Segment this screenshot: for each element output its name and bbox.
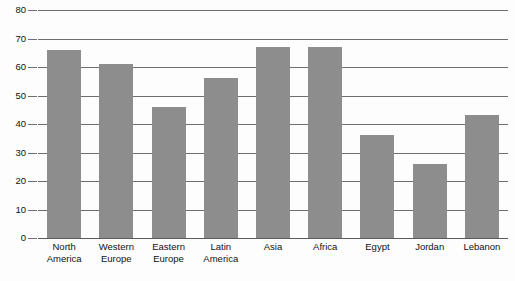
y-axis-tick — [28, 39, 37, 40]
y-axis-tick-label: 20 — [4, 176, 26, 186]
y-axis-tick — [28, 210, 37, 211]
y-axis-tick — [28, 124, 37, 125]
bar — [256, 47, 290, 238]
bar — [99, 64, 133, 238]
bar — [152, 107, 186, 238]
y-axis-tick-label: 30 — [4, 148, 26, 158]
y-axis-tick-label: 70 — [4, 34, 26, 44]
y-axis-tick-label: 50 — [4, 91, 26, 101]
x-axis-category-label: Lebanon — [449, 241, 515, 253]
x-axis-label-line: America — [188, 253, 254, 265]
x-axis-label-line: Lebanon — [449, 241, 515, 253]
y-axis-tick-label: 10 — [4, 205, 26, 215]
y-axis-labels: 80 70 60 50 40 30 20 10 0 — [0, 0, 26, 281]
y-axis-tick — [28, 153, 37, 154]
y-axis-tick-label: 80 — [4, 5, 26, 15]
x-axis-labels: NorthAmericaWesternEuropeEasternEuropeLa… — [38, 241, 508, 281]
y-axis-tick-label: 60 — [4, 62, 26, 72]
bar — [204, 78, 238, 238]
bar — [47, 50, 81, 238]
y-axis-tick — [28, 10, 37, 11]
bar-chart: 80 70 60 50 40 30 20 10 0 NorthAmericaWe… — [0, 0, 515, 281]
bar — [360, 135, 394, 238]
plot-area — [38, 10, 508, 238]
y-axis-tick-label: 40 — [4, 119, 26, 129]
bar-series — [38, 10, 508, 238]
y-axis-tick — [28, 238, 37, 239]
y-axis-tick — [28, 181, 37, 182]
y-axis-tick-label: 0 — [4, 233, 26, 243]
bar — [308, 47, 342, 238]
bar — [413, 164, 447, 238]
y-axis-tick — [28, 96, 37, 97]
y-axis-tick — [28, 67, 37, 68]
axis-baseline — [38, 238, 508, 239]
bar — [465, 115, 499, 238]
